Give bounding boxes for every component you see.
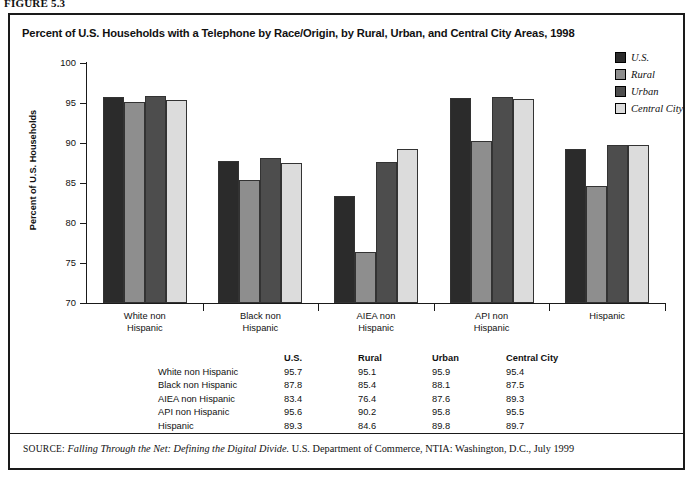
x-axis-category-label-line2: Hispanic xyxy=(318,323,434,335)
table-cell-central-city: 89.7 xyxy=(506,420,580,434)
y-axis-tick xyxy=(80,103,87,104)
table-cell-label: API non Hispanic xyxy=(158,406,284,420)
table-cell-rural: 90.2 xyxy=(358,406,432,420)
x-axis-category-label-line2: Hispanic xyxy=(203,323,319,335)
table-cell-urban: 88.1 xyxy=(432,379,506,393)
bar xyxy=(586,186,607,303)
bar xyxy=(565,149,586,303)
table-row: Black non Hispanic87.885.488.187.5 xyxy=(158,379,580,393)
bar-group xyxy=(334,63,418,303)
x-axis-category-label: API nonHispanic xyxy=(434,311,550,334)
x-axis-separator-tick xyxy=(318,304,319,311)
table-header-central-city: Central City xyxy=(506,352,580,366)
source-note: SOURCE: Falling Through the Net: Definin… xyxy=(23,442,671,455)
y-axis-tick xyxy=(80,183,87,184)
table-header: U.S. Rural Urban Central City xyxy=(158,352,580,366)
table-cell-label: White non Hispanic xyxy=(158,366,284,380)
table-cell-urban: 87.6 xyxy=(432,393,506,407)
y-axis-tick-label: 95 xyxy=(50,97,76,108)
data-table: U.S. Rural Urban Central City White non … xyxy=(158,352,580,433)
x-axis-category-label-line2: Hispanic xyxy=(87,323,203,335)
table-cell-us: 95.6 xyxy=(284,406,358,420)
table-header-us: U.S. xyxy=(284,352,358,366)
y-axis-tick-label: 100 xyxy=(50,57,76,68)
x-axis-category-label-line1: Black non xyxy=(203,311,319,323)
y-axis-tick xyxy=(80,263,87,264)
y-axis-tick-label: 80 xyxy=(50,217,76,228)
x-axis-category-label-line1: AIEA non xyxy=(318,311,434,323)
table-cell-label: AIEA non Hispanic xyxy=(158,393,284,407)
table-cell-rural: 95.1 xyxy=(358,366,432,380)
x-axis-separator-tick xyxy=(434,304,435,311)
x-axis-category-label: Hispanic xyxy=(549,311,665,323)
y-axis-tick-label: 90 xyxy=(50,137,76,148)
x-axis-category-label-line1: White non xyxy=(87,311,203,323)
table-cell-rural: 85.4 xyxy=(358,379,432,393)
table-cell-us: 95.7 xyxy=(284,366,358,380)
source-title: Falling Through the Net: Defining the Di… xyxy=(68,443,290,454)
x-axis-category-label-line1: API non xyxy=(434,311,550,323)
table-cell-label: Black non Hispanic xyxy=(158,379,284,393)
x-axis-category-label: Black nonHispanic xyxy=(203,311,319,334)
bar xyxy=(124,102,145,303)
bar xyxy=(239,180,260,303)
y-axis-tick xyxy=(80,223,87,224)
y-axis-tick xyxy=(80,303,87,304)
table-row: White non Hispanic95.795.195.995.4 xyxy=(158,366,580,380)
table-cell-central-city: 89.3 xyxy=(506,393,580,407)
table-cell-urban: 89.8 xyxy=(432,420,506,434)
y-axis-tick xyxy=(80,143,87,144)
figure-frame: Percent of U.S. Households with a Teleph… xyxy=(8,13,685,470)
bar xyxy=(260,158,281,303)
table-header-urban: Urban xyxy=(432,352,506,366)
table-header-blank xyxy=(158,352,284,366)
y-axis-tick xyxy=(80,63,87,64)
y-axis-tick-label: 85 xyxy=(50,177,76,188)
source-kicker: SOURCE: xyxy=(23,443,65,454)
x-axis-separator-tick xyxy=(549,304,550,311)
bar xyxy=(103,97,124,303)
figure-number-label: FIGURE 5.3 xyxy=(4,0,65,9)
table-cell-us: 89.3 xyxy=(284,420,358,434)
table-cell-rural: 84.6 xyxy=(358,420,432,434)
bar-group xyxy=(103,63,187,303)
bar xyxy=(607,145,628,303)
table-cell-central-city: 95.5 xyxy=(506,406,580,420)
bar xyxy=(281,163,302,303)
table-cell-urban: 95.8 xyxy=(432,406,506,420)
bar xyxy=(145,96,166,303)
table-header-rural: Rural xyxy=(358,352,432,366)
bar xyxy=(471,141,492,303)
x-axis-category-label: White nonHispanic xyxy=(87,311,203,334)
table-row: AIEA non Hispanic83.476.487.689.3 xyxy=(158,393,580,407)
bar-group xyxy=(450,63,534,303)
x-axis-separator-tick xyxy=(665,304,666,311)
source-rest: U.S. Department of Commerce, NTIA: Washi… xyxy=(289,443,574,454)
table-cell-us: 87.8 xyxy=(284,379,358,393)
table-row: Hispanic89.384.689.889.7 xyxy=(158,420,580,434)
table-cell-central-city: 87.5 xyxy=(506,379,580,393)
x-axis-separator-tick xyxy=(203,304,204,311)
y-axis-title: Percent of U.S. Households xyxy=(28,100,38,240)
x-axis-line xyxy=(86,303,666,304)
bar xyxy=(450,98,471,303)
y-axis-tick-label: 75 xyxy=(50,257,76,268)
table-cell-urban: 95.9 xyxy=(432,366,506,380)
bar xyxy=(513,99,534,303)
bar-group xyxy=(218,63,302,303)
table-cell-us: 83.4 xyxy=(284,393,358,407)
table-header-row: U.S. Rural Urban Central City xyxy=(158,352,580,366)
bar xyxy=(628,145,649,303)
y-axis-tick-label: 70 xyxy=(50,297,76,308)
x-axis-category-label-line1: Hispanic xyxy=(549,311,665,323)
plot-area xyxy=(87,63,665,303)
source-divider xyxy=(10,433,683,434)
table-body: White non Hispanic95.795.195.995.4Black … xyxy=(158,366,580,434)
bar xyxy=(492,97,513,303)
table-cell-central-city: 95.4 xyxy=(506,366,580,380)
bar xyxy=(334,196,355,303)
bar xyxy=(376,162,397,303)
x-axis-category-label: AIEA nonHispanic xyxy=(318,311,434,334)
x-axis-category-label-line2: Hispanic xyxy=(434,323,550,335)
bar xyxy=(166,100,187,303)
